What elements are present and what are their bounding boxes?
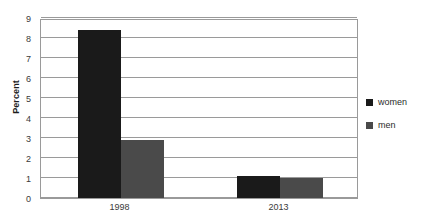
legend-swatch-icon <box>366 99 373 106</box>
legend-item-women[interactable]: women <box>366 96 424 108</box>
bar-men-2013 <box>280 178 323 198</box>
plot-area <box>40 19 358 199</box>
y-axis-tick-label: 1 <box>26 175 31 184</box>
y-axis-tick-label: 3 <box>26 135 31 144</box>
legend-label: women <box>378 98 407 107</box>
x-axis-tick-labels: 19982013 <box>40 202 358 218</box>
bar-men-1998 <box>121 140 164 198</box>
y-axis-tick-label: 8 <box>26 35 31 44</box>
legend: womenmen <box>366 96 424 142</box>
legend-item-men[interactable]: men <box>366 119 424 131</box>
y-axis-tick-labels: 0123456789 <box>0 19 36 199</box>
x-axis-tick-label: 1998 <box>109 202 129 213</box>
bar-women-1998 <box>78 30 121 198</box>
y-axis-tick-label: 7 <box>26 55 31 64</box>
y-axis-tick-label: 0 <box>26 195 31 204</box>
y-axis-tick-label: 5 <box>26 95 31 104</box>
bar-chart: Percent 0123456789 19982013 womenmen <box>0 0 424 224</box>
y-axis-tick-label: 9 <box>26 15 31 24</box>
y-axis-tick-label: 4 <box>26 115 31 124</box>
legend-label: men <box>378 121 396 130</box>
legend-swatch-icon <box>366 122 373 129</box>
bars-layer <box>41 20 357 198</box>
y-axis-tick-label: 2 <box>26 155 31 164</box>
bar-women-2013 <box>237 176 280 198</box>
y-axis-tick-label: 6 <box>26 75 31 84</box>
x-axis-tick-label: 2013 <box>268 202 288 213</box>
gridline <box>41 17 357 18</box>
